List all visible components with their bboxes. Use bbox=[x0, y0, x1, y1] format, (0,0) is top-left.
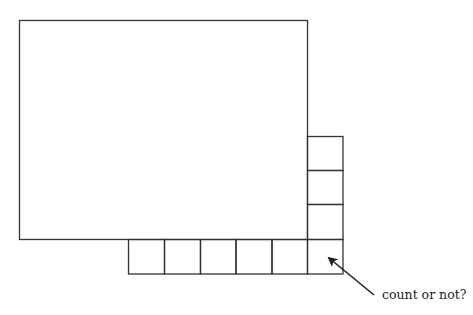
right-square-2 bbox=[308, 171, 344, 205]
bottom-square-2 bbox=[165, 240, 201, 275]
right-square-1 bbox=[308, 137, 344, 171]
annotation-label: count or not? bbox=[382, 287, 466, 302]
bottom-row bbox=[129, 240, 308, 275]
right-column bbox=[308, 137, 344, 240]
grid-diagram bbox=[0, 0, 473, 315]
arrow-icon bbox=[329, 258, 374, 295]
main-rectangle bbox=[20, 21, 308, 240]
corner-square bbox=[308, 240, 344, 275]
bottom-square-1 bbox=[129, 240, 165, 275]
right-square-3 bbox=[308, 205, 344, 240]
bottom-square-5 bbox=[272, 240, 308, 275]
bottom-square-3 bbox=[201, 240, 237, 275]
bottom-square-4 bbox=[236, 240, 272, 275]
